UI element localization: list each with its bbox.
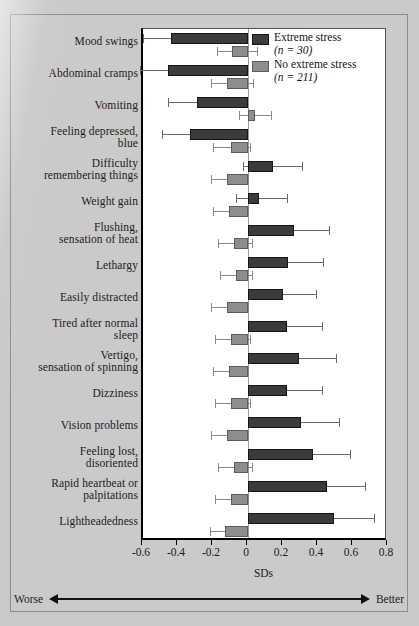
error-bar-cap	[140, 66, 141, 75]
bar-no-extreme-stress	[236, 270, 248, 281]
category-axis-labels: Mood swingsAbdominal crampsVomitingFeeli…	[12, 28, 138, 540]
x-axis-tick	[141, 540, 142, 545]
error-bar	[236, 198, 287, 199]
legend-swatch	[252, 34, 269, 45]
legend-item: No extreme stress(n = 211)	[252, 58, 356, 84]
error-bar-cap	[211, 79, 212, 88]
x-axis-tick-label: -0.6	[132, 546, 150, 558]
x-axis-tick	[176, 540, 177, 545]
bar-extreme-stress	[248, 321, 287, 332]
error-bar-cap	[213, 143, 214, 152]
error-bar-cap	[143, 34, 144, 43]
bar-no-extreme-stress	[227, 302, 248, 313]
category-label: Easily distracted	[12, 291, 138, 304]
error-bar-cap	[243, 162, 244, 171]
error-bar-cap	[336, 354, 337, 363]
x-axis-tick-label: 0.6	[344, 546, 358, 558]
x-axis-tick-label: 0	[243, 546, 249, 558]
error-bar-cap	[211, 431, 212, 440]
category-label: Flushing,sensation of heat	[12, 221, 138, 246]
error-bar-cap	[350, 450, 351, 459]
error-bar-cap	[213, 207, 214, 216]
error-bar-cap	[220, 271, 221, 280]
category-label: Difficultyremembering things	[12, 157, 138, 182]
x-axis-tick-label: 0.2	[274, 546, 288, 558]
legend-label: Extreme stress	[274, 31, 341, 44]
value-axis: -0.6-0.4-0.200.20.40.60.8	[141, 540, 386, 570]
x-axis-tick	[246, 540, 247, 545]
bar-no-extreme-stress	[229, 366, 248, 377]
error-bar-cap	[271, 111, 272, 120]
category-label: Mood swings	[12, 35, 138, 48]
category-label: Feeling lost,disoriented	[12, 445, 138, 470]
category-label: Feeling depressed,blue	[12, 125, 138, 150]
bar-no-extreme-stress	[229, 206, 248, 217]
error-bar-cap	[248, 207, 249, 216]
error-bar-cap	[215, 399, 216, 408]
error-bar-cap	[218, 239, 219, 248]
bar-no-extreme-stress	[248, 110, 255, 121]
error-bar-cap	[248, 303, 249, 312]
x-axis-tick-label: -0.2	[202, 546, 220, 558]
error-bar-cap	[329, 226, 330, 235]
bar-extreme-stress	[248, 513, 334, 524]
plot-area	[141, 28, 386, 540]
x-axis-tick	[316, 540, 317, 545]
x-axis-tick	[351, 540, 352, 545]
error-bar-cap	[168, 98, 169, 107]
error-bar-cap	[322, 386, 323, 395]
error-bar-cap	[210, 527, 211, 536]
x-axis-tick	[281, 540, 282, 545]
error-bar-cap	[250, 143, 251, 152]
error-bar-cap	[365, 482, 366, 491]
x-axis-tick	[386, 540, 387, 545]
category-label: Vision problems	[12, 419, 138, 432]
bar-extreme-stress	[248, 449, 313, 460]
legend-sample-size: (n = 30)	[274, 44, 341, 57]
x-axis-tick-label: 0.4	[309, 546, 323, 558]
bar-extreme-stress	[248, 385, 287, 396]
bar-no-extreme-stress	[234, 238, 248, 249]
error-bar-cap	[250, 335, 251, 344]
error-bar	[239, 115, 271, 116]
error-bar-cap	[339, 418, 340, 427]
bar-no-extreme-stress	[227, 174, 248, 185]
bar-no-extreme-stress	[227, 78, 248, 89]
bar-extreme-stress	[197, 97, 248, 108]
error-bar-cap	[211, 303, 212, 312]
category-label: Tired after normalsleep	[12, 317, 138, 342]
bar-extreme-stress	[248, 289, 283, 300]
bar-extreme-stress	[248, 481, 327, 492]
error-bar-cap	[252, 463, 253, 472]
error-bar-cap	[302, 162, 303, 171]
legend-item: Extreme stress(n = 30)	[252, 31, 356, 57]
error-bar-cap	[215, 335, 216, 344]
legend-swatch	[252, 61, 269, 72]
category-label: Dizziness	[12, 387, 138, 400]
error-bar-cap	[248, 367, 249, 376]
bar-no-extreme-stress	[225, 526, 248, 537]
error-bar-cap	[374, 514, 375, 523]
category-label: Vomiting	[12, 99, 138, 112]
legend-label: No extreme stress	[274, 58, 356, 71]
better-label: Better	[376, 593, 404, 605]
error-bar-cap	[236, 194, 237, 203]
bar-no-extreme-stress	[232, 46, 248, 57]
error-bar-cap	[239, 111, 240, 120]
zero-reference-line	[248, 29, 249, 538]
bar-extreme-stress	[248, 193, 259, 204]
error-bar-cap	[323, 258, 324, 267]
legend-sample-size: (n = 211)	[274, 71, 356, 84]
bar-extreme-stress	[248, 161, 273, 172]
category-label: Rapid heartbeat orpalpitations	[12, 477, 138, 502]
x-axis-tick	[211, 540, 212, 545]
error-bar-cap	[248, 495, 249, 504]
legend: Extreme stress(n = 30)No extreme stress(…	[252, 31, 356, 85]
double-arrow-icon	[49, 593, 370, 605]
bar-extreme-stress	[248, 417, 301, 428]
figure-container: Mood swingsAbdominal crampsVomitingFeeli…	[0, 0, 419, 626]
worse-label: Worse	[14, 593, 43, 605]
error-bar-cap	[252, 271, 253, 280]
bar-extreme-stress	[248, 257, 288, 268]
bar-extreme-stress	[168, 65, 249, 76]
